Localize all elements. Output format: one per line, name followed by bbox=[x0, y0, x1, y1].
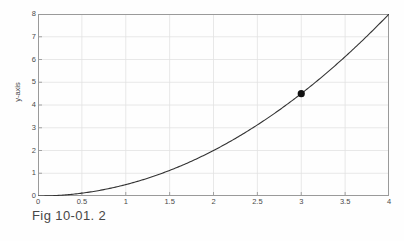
x-tick-label: 4 bbox=[374, 198, 404, 206]
y-tick-label: 3 bbox=[22, 124, 36, 132]
gridlines bbox=[38, 14, 389, 196]
data-point-markers bbox=[298, 90, 305, 97]
y-tick-label: 7 bbox=[22, 33, 36, 41]
y-tick-label: 4 bbox=[22, 101, 36, 109]
chart-canvas bbox=[38, 14, 389, 196]
x-tick-label: 0.5 bbox=[67, 198, 97, 206]
x-tick-label: 0 bbox=[23, 198, 53, 206]
figure-container: 012345678 00.511.522.533.54 y-axis Fig 1… bbox=[0, 0, 404, 241]
x-tick-label: 2 bbox=[199, 198, 229, 206]
x-tick-label: 3.5 bbox=[330, 198, 360, 206]
x-tick-label: 2.5 bbox=[242, 198, 272, 206]
x-tick-label: 3 bbox=[286, 198, 316, 206]
y-axis-title: y-axis bbox=[14, 70, 22, 114]
y-axis-tick-labels: 012345678 bbox=[20, 14, 36, 196]
y-tick-label: 8 bbox=[22, 10, 36, 18]
x-tick-label: 1.5 bbox=[155, 198, 185, 206]
figure-caption: Fig 10-01. 2 bbox=[32, 208, 106, 224]
x-tick-label: 1 bbox=[111, 198, 141, 206]
plot-area bbox=[38, 14, 389, 196]
y-tick-label: 6 bbox=[22, 56, 36, 64]
y-tick-label: 5 bbox=[22, 78, 36, 86]
y-tick-label: 1 bbox=[22, 169, 36, 177]
y-tick-label: 2 bbox=[22, 147, 36, 155]
